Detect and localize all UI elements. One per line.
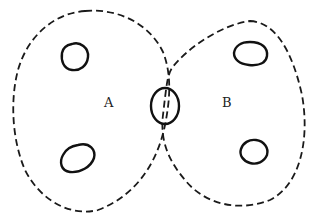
region-a-label: A	[103, 95, 114, 110]
region-a-boundary	[13, 11, 169, 212]
loop-a-upper	[62, 43, 88, 70]
loop-b-upper	[234, 42, 267, 65]
loop-a-lower	[61, 144, 94, 172]
region-b-label: B	[222, 95, 232, 110]
diagram-canvas: A B	[0, 0, 315, 222]
loop-b-lower	[240, 140, 267, 164]
region-b-boundary	[162, 21, 304, 206]
